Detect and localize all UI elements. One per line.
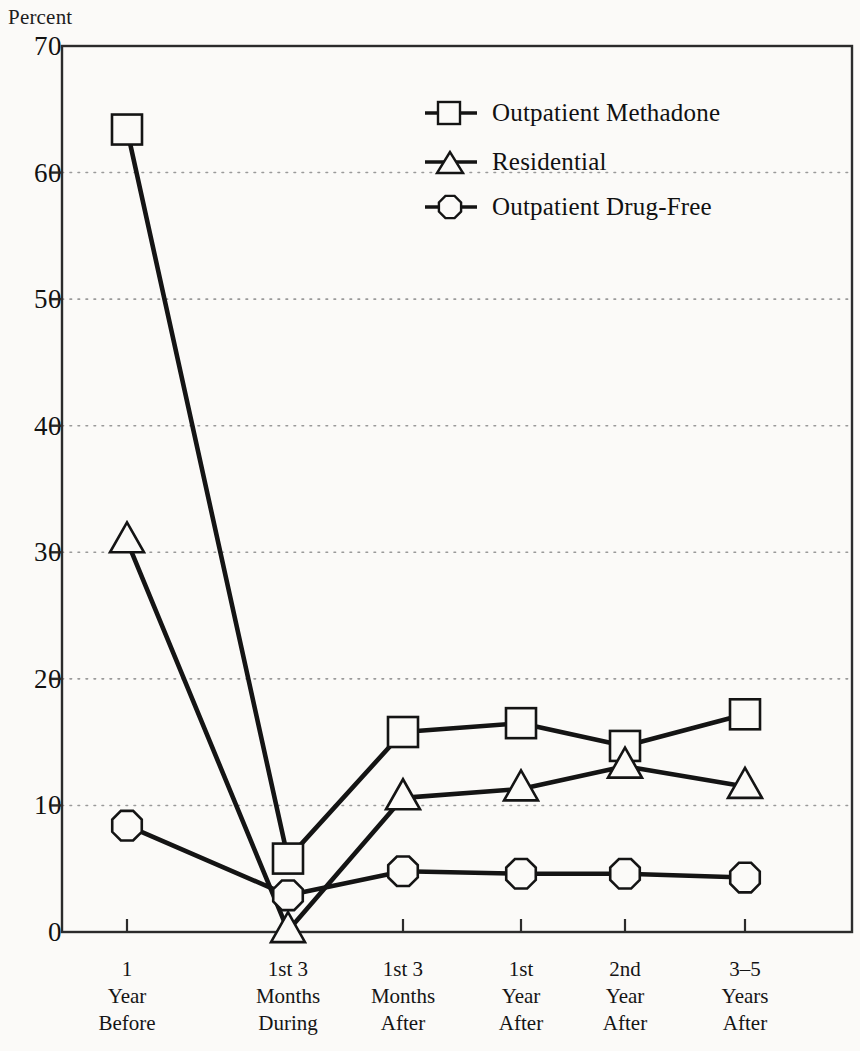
x-tick-label-2-line2: Months xyxy=(371,983,435,1010)
x-tick-label-1-line2: Months xyxy=(256,983,320,1010)
series-0-point-1-square-marker xyxy=(273,844,303,874)
x-tick-label-5-line1: 3–5 xyxy=(722,956,769,983)
series-1-point-2-triangle-marker xyxy=(386,779,420,809)
x-tick-label-5-line3: After xyxy=(722,1010,769,1037)
x-tick-label-4-line3: After xyxy=(603,1010,647,1037)
x-tick-label-2: 1st 3MonthsAfter xyxy=(371,956,435,1037)
series-2-point-5-hexagon-marker xyxy=(730,863,760,893)
legend-item-label-2: Outpatient Drug-Free xyxy=(492,193,712,221)
series-line-2 xyxy=(127,826,745,896)
legend-item-label-1: Residential xyxy=(492,148,607,176)
series-0-point-5-square-marker xyxy=(730,699,760,729)
x-tick-label-4: 2ndYearAfter xyxy=(603,956,647,1037)
legend-item-0: Outpatient Methadone xyxy=(424,99,720,127)
x-tick-label-0-line1: 1 xyxy=(98,956,155,983)
x-tick-label-5: 3–5YearsAfter xyxy=(722,956,769,1037)
series-2-point-1-hexagon-marker xyxy=(273,881,303,911)
hexagon-icon xyxy=(424,194,478,220)
chart-root: Percent 010203040506070 1YearBefore1st 3… xyxy=(0,0,860,1051)
x-tick-label-3-line3: After xyxy=(499,1010,543,1037)
x-tick-label-0-line2: Year xyxy=(98,983,155,1010)
x-tick-label-1: 1st 3MonthsDuring xyxy=(256,956,320,1037)
x-tick-label-3-line2: Year xyxy=(499,983,543,1010)
x-tick-label-2-line1: 1st 3 xyxy=(371,956,435,983)
square-icon xyxy=(424,100,478,126)
series-2-point-4-hexagon-marker xyxy=(610,859,640,889)
x-tick-label-0-line3: Before xyxy=(98,1010,155,1037)
x-tick-label-4-line1: 2nd xyxy=(603,956,647,983)
x-tick-label-3: 1stYearAfter xyxy=(499,956,543,1037)
series-0-point-3-square-marker xyxy=(506,708,536,738)
series-0-point-0-square-marker xyxy=(112,115,142,145)
x-tick-label-5-line2: Years xyxy=(722,983,769,1010)
x-tick-label-0: 1YearBefore xyxy=(98,956,155,1037)
series-1-point-0-triangle-marker xyxy=(110,522,144,552)
x-tick-label-1-line1: 1st 3 xyxy=(256,956,320,983)
x-tick-label-1-line3: During xyxy=(256,1010,320,1037)
series-0-point-2-square-marker xyxy=(388,717,418,747)
series-2-point-0-hexagon-marker xyxy=(112,811,142,841)
x-tick-label-2-line3: After xyxy=(371,1010,435,1037)
x-tick-label-3-line1: 1st xyxy=(499,956,543,983)
legend-item-2: Outpatient Drug-Free xyxy=(424,193,712,221)
x-tick-label-4-line2: Year xyxy=(603,983,647,1010)
triangle-icon xyxy=(424,149,478,175)
series-line-0 xyxy=(127,130,745,859)
series-2-point-2-hexagon-marker xyxy=(388,856,418,886)
series-2-point-3-hexagon-marker xyxy=(506,859,536,889)
legend-item-label-0: Outpatient Methadone xyxy=(492,99,720,127)
legend-item-1: Residential xyxy=(424,148,607,176)
